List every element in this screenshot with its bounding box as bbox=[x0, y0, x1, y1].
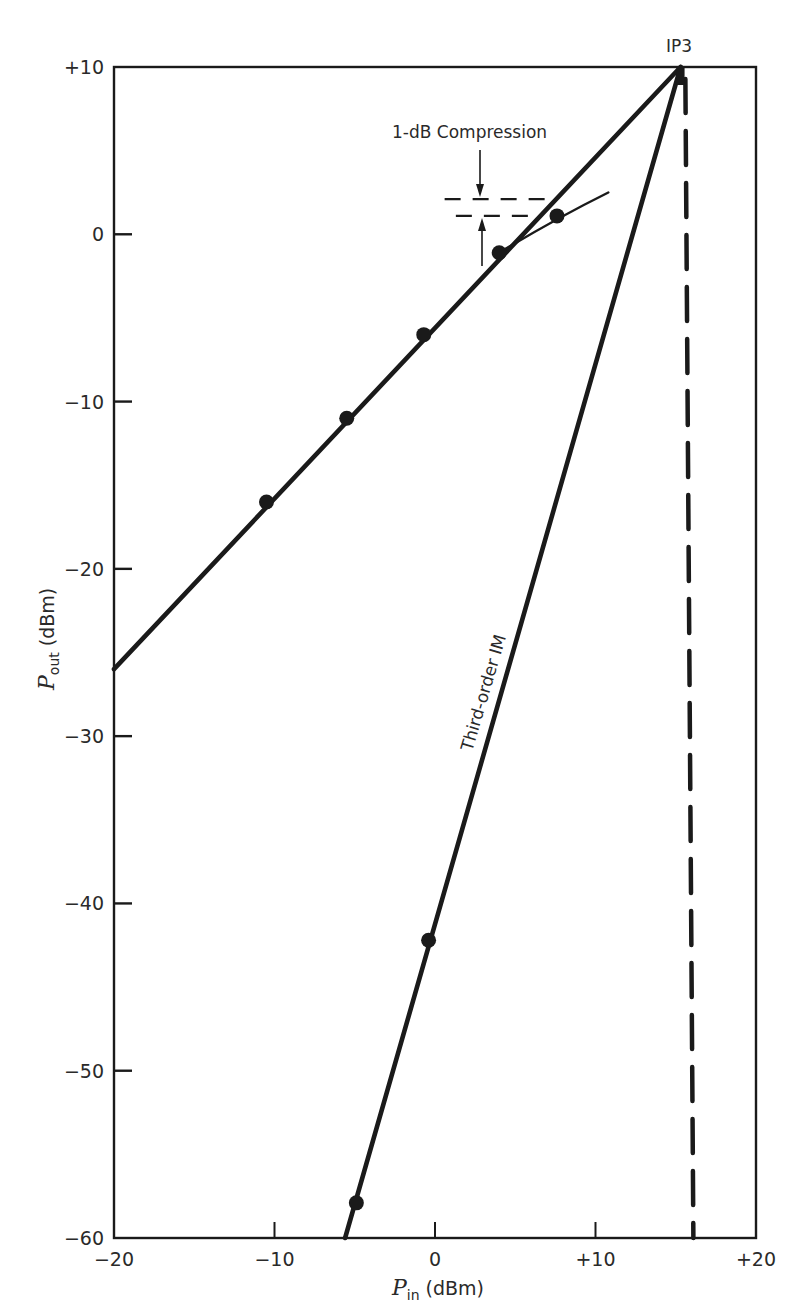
y-tick-label: −50 bbox=[64, 1060, 104, 1082]
x-tick-label: −10 bbox=[254, 1248, 294, 1270]
compression-down-arrow-head bbox=[476, 184, 484, 197]
x-tick-label: 0 bbox=[429, 1248, 441, 1270]
compression-arrows bbox=[476, 150, 486, 266]
y-tick-label: −40 bbox=[64, 892, 104, 914]
ip3-label: IP3 bbox=[666, 36, 692, 56]
y-tick-label: 0 bbox=[92, 223, 104, 245]
x-tick-label: +10 bbox=[575, 1248, 615, 1270]
data-point bbox=[421, 933, 436, 948]
x-tick-label: +20 bbox=[736, 1248, 776, 1270]
data-point bbox=[259, 494, 274, 509]
plot-frame bbox=[114, 67, 756, 1238]
y-tick-label: −10 bbox=[64, 391, 104, 413]
data-point bbox=[549, 208, 564, 223]
y-tick-label: −20 bbox=[64, 558, 104, 580]
data-point bbox=[416, 327, 431, 342]
data-point bbox=[339, 411, 354, 426]
ip3-marker bbox=[677, 67, 685, 85]
compression-up-arrow-head bbox=[478, 218, 486, 231]
data-point bbox=[349, 1195, 364, 1210]
y-tick-label: −30 bbox=[64, 725, 104, 747]
x-tick-label: −20 bbox=[94, 1248, 134, 1270]
y-tick-label: −60 bbox=[64, 1227, 104, 1249]
ip3-dashed-line bbox=[685, 79, 693, 1238]
y-tick-label: +10 bbox=[64, 56, 104, 78]
data-point bbox=[492, 245, 507, 260]
x-axis-title: Pin(dBm) bbox=[391, 1275, 484, 1303]
ip3-chart: +100−10−20−30−40−50−60−20−100+10+20 Pin(… bbox=[0, 0, 795, 1311]
compression-label: 1-dB Compression bbox=[392, 122, 547, 142]
y-axis-title: Pout(dBm) bbox=[34, 588, 62, 691]
